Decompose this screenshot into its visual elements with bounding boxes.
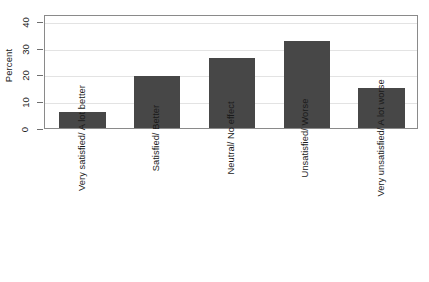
x-axis-category-label-text: Unsatisfied/ Worse xyxy=(301,99,311,178)
x-axis-category-label-text: Very satisfied/ A lot better xyxy=(76,85,86,191)
y-axis-tick-label: 30 xyxy=(16,43,34,55)
y-axis-tick-label: 0 xyxy=(16,123,34,135)
y-axis-tick-label: 40 xyxy=(16,17,34,29)
y-axis-tick-label: 10 xyxy=(16,96,34,108)
y-axis-tick-labels: 010203040 xyxy=(16,0,34,140)
y-axis-title-text: Percent xyxy=(4,48,15,81)
x-axis-category-label: Unsatisfied/ Worse xyxy=(268,133,343,279)
bar-chart: Percent 010203040 Very satisfied/ A lot … xyxy=(0,0,429,282)
x-axis-category-label: Very unsatisfied/ A lot worse xyxy=(343,133,418,279)
y-axis-tick-label-text: 10 xyxy=(19,97,30,108)
y-axis-tick-mark xyxy=(37,129,43,130)
x-axis-category-label: Very satisfied/ A lot better xyxy=(44,133,119,279)
x-axis-category-label-text: Satisfied/ Better xyxy=(151,105,161,171)
x-axis-category-label: Neutral/ No effect xyxy=(194,133,269,279)
y-axis-tick-label-text: 0 xyxy=(19,126,30,131)
x-axis-category-label-text: Very unsatisfied/ A lot worse xyxy=(376,79,386,196)
y-axis-tick-mark xyxy=(37,22,43,23)
y-axis-tick-mark xyxy=(37,102,43,103)
x-axis-category-label: Satisfied/ Better xyxy=(119,133,194,279)
y-axis-tick-label: 20 xyxy=(16,70,34,82)
x-axis-category-labels: Very satisfied/ A lot betterSatisfied/ B… xyxy=(44,133,418,279)
y-axis-tick-label-text: 30 xyxy=(19,44,30,55)
y-axis-tick-label-text: 20 xyxy=(19,71,30,82)
y-axis-tick-mark xyxy=(37,75,43,76)
y-axis-tick-label-text: 40 xyxy=(19,18,30,29)
y-axis-tick-mark xyxy=(37,49,43,50)
x-axis-category-label-text: Neutral/ No effect xyxy=(226,101,236,174)
